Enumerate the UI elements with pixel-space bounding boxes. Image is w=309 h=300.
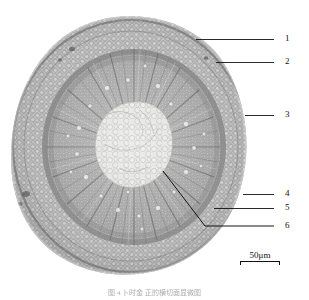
scale-bar-tick-left [240, 261, 241, 265]
callout-number-5: 5 [285, 203, 290, 212]
micrograph-canvas [8, 14, 254, 276]
scale-bar-tick-right [279, 261, 280, 265]
figure-caption: 图 4 卜时金 正的横切面显微图 [0, 289, 309, 297]
root-cross-section-micrograph [8, 14, 254, 276]
scale-bar-label: 50μm [237, 250, 283, 260]
callout-number-4: 4 [285, 189, 290, 198]
callout-number-6: 6 [285, 221, 290, 230]
callout-number-2: 2 [285, 57, 290, 66]
scale-bar-rule [237, 261, 283, 266]
callout-number-3: 3 [285, 110, 290, 119]
scale-bar: 50μm [237, 250, 283, 266]
callout-number-1: 1 [285, 34, 290, 43]
scale-bar-line [240, 261, 280, 262]
figure-root: 1 2 3 4 5 6 50μm 图 4 卜时金 正的横切面显微图 [0, 0, 309, 300]
